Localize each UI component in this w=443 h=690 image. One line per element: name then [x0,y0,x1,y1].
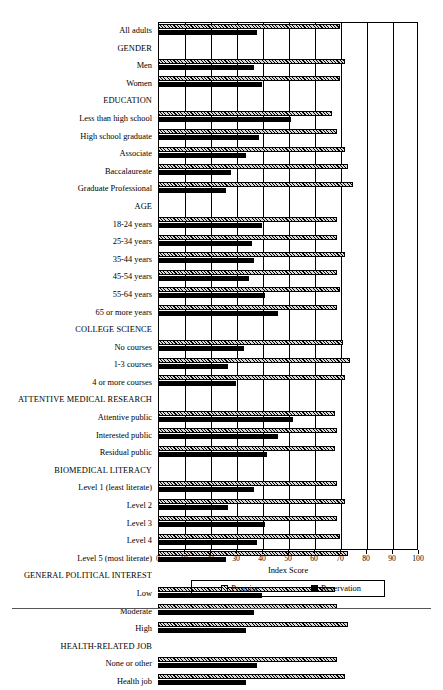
promise-bar [158,481,337,486]
promise-bar [158,375,345,380]
promise-bar [158,235,337,240]
x-tick-label: 100 [412,554,423,563]
promise-bar [158,499,345,504]
promise-bar [158,270,337,275]
x-tick-label: 40 [258,554,266,563]
legend-item-promise: Promise [192,584,288,593]
reservation-bar [158,188,226,193]
x-tick-label: 0 [156,554,160,563]
promise-bar [158,76,340,81]
legend-label-promise: Promise [231,584,258,593]
bar-row-empty [158,391,418,409]
reservation-bar [158,452,267,457]
bar-row [158,251,418,269]
page-divider [12,608,431,609]
category-label: Baccalaureate [0,163,156,181]
category-label: 65 or more years [0,304,156,322]
promise-bar [158,340,343,345]
reservation-bar [158,311,278,316]
bar-row [158,57,418,75]
bar-row [158,268,418,286]
reservation-bar [158,293,265,298]
category-group-header: GENDER [0,40,156,58]
bar-row [158,128,418,146]
reservation-bar [158,223,262,228]
reservation-bar [158,540,257,545]
reservation-bar [158,241,252,246]
x-tick-label: 50 [284,554,292,563]
category-group-header: BIOMEDICAL LITERACY [0,462,156,480]
category-label: Men [0,57,156,75]
bar-row [158,427,418,445]
category-label: No courses [0,339,156,357]
bar-row [158,655,418,673]
promise-bar [158,358,350,363]
promise-bar [158,252,345,257]
category-label: Graduate Professional [0,180,156,198]
promise-bar [158,411,335,416]
category-label: None or other [0,655,156,673]
legend-label-reservation: Reservation [321,584,361,593]
reservation-bar [158,680,246,685]
reservation-bar [158,30,257,35]
promise-swatch-icon [221,585,228,592]
category-label: Less than high school [0,110,156,128]
x-tick-label: 60 [310,554,318,563]
bar-row-empty [158,198,418,216]
category-label: 55-64 years [0,286,156,304]
x-tick-label: 10 [180,554,188,563]
bar-row [158,163,418,181]
category-label: 1-3 courses [0,356,156,374]
reservation-bar [158,65,254,70]
category-group-header: HEALTH-RELATED JOB [0,638,156,656]
promise-bar [158,24,340,29]
bar-row-empty [158,40,418,58]
category-label: Associate [0,145,156,163]
promise-bar [158,674,345,679]
x-tick-label: 30 [232,554,240,563]
bar-row [158,286,418,304]
bar-row [158,356,418,374]
category-label: 4 or more courses [0,374,156,392]
bar-row-empty [158,638,418,656]
x-tick-label: 70 [336,554,344,563]
bar-row [158,145,418,163]
bar-row-empty [158,462,418,480]
bar-row [158,409,418,427]
reservation-swatch-icon [311,585,318,592]
category-label: Level 1 (least literate) [0,479,156,497]
bar-row-empty [158,321,418,339]
promise-bar [158,111,332,116]
bar-row-empty [158,92,418,110]
reservation-bar [158,522,265,527]
promise-bar [158,164,348,169]
reservation-bar [158,170,231,175]
reservation-bar [158,417,293,422]
bar-row [158,110,418,128]
reservation-bar [158,505,228,510]
reservation-bar [158,153,246,158]
bar-row [158,479,418,497]
legend-item-reservation: Reservation [288,584,384,593]
reservation-bar [158,135,259,140]
reservation-bar [158,276,249,281]
promise-bar [158,129,337,134]
bar-row [158,22,418,40]
category-label: Moderate [0,603,156,621]
category-label: Residual public [0,444,156,462]
bar-row [158,532,418,550]
category-axis-labels: All adultsGENDERMenWomenEDUCATIONLess th… [0,22,156,550]
promise-bar [158,622,348,627]
category-label: 45-54 years [0,268,156,286]
category-group-header: GENERAL POLITICAL INTEREST [0,567,156,585]
legend: Promise Reservation [191,580,385,597]
category-label: High [0,620,156,638]
promise-bar [158,287,340,292]
x-tick-label: 20 [206,554,214,563]
bar-row [158,339,418,357]
x-tick-label: 90 [388,554,396,563]
x-tick-label: 80 [362,554,370,563]
bar-row [158,603,418,621]
